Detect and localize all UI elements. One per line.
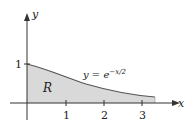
- x-axis-label: x: [178, 97, 185, 110]
- curve-equation: y = e−x/2: [82, 68, 126, 80]
- curve-equation-exponent: −x/2: [109, 68, 126, 76]
- y-axis-arrow-icon: [24, 13, 30, 21]
- region-label: R: [42, 81, 52, 95]
- y-tick-label-1: 1: [15, 58, 22, 71]
- x-tick-label-2: 2: [101, 109, 108, 122]
- x-tick-label-1: 1: [63, 109, 70, 122]
- curve-equation-base: y = e: [82, 69, 109, 80]
- graph: 1 2 3 1 x y R y = e−x/2: [0, 0, 195, 131]
- x-tick-label-3: 3: [139, 109, 146, 122]
- y-axis-label: y: [31, 8, 39, 21]
